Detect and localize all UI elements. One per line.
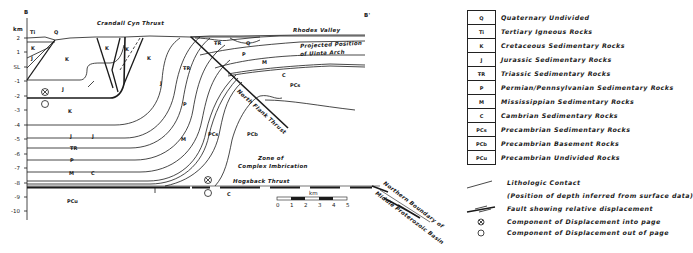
unit-c-lower: C: [91, 170, 95, 176]
legend-description: Mississippian Sedimentary Rocks: [496, 95, 675, 109]
out-of-page-symbol-left: [42, 101, 49, 108]
legend-contact-line: [467, 181, 492, 188]
legend-description: Triassic Sedimentary Rocks: [496, 67, 675, 81]
unit-j-lower: J: [70, 133, 72, 139]
legend-description: Cambrian Sedimentary Rocks: [496, 109, 675, 123]
scale-bar: [277, 197, 347, 200]
unit-k-thrust2: K: [125, 46, 129, 52]
scale-tick-1: 1: [290, 202, 294, 208]
legend-symbol: ŦR: [468, 67, 496, 81]
legend-row: PCbPrecambrian Basement Rocks: [468, 137, 675, 151]
hogsback-thrust-label: Hogsback Thrust: [233, 178, 290, 184]
unit-c-right: C: [282, 72, 286, 78]
unit-m-right: M: [262, 59, 267, 65]
legend-row: MMississippian Sedimentary Rocks: [468, 95, 675, 109]
tick-m1: -1: [15, 78, 20, 84]
out-of-page-symbol-hogsback: [205, 190, 212, 197]
legend-symbol: J: [468, 53, 496, 67]
tick-m7: -7: [15, 165, 20, 171]
tick-m8: -8: [15, 180, 20, 186]
unit-pcs-right: PCs: [290, 82, 300, 88]
scale-tick-5: 5: [346, 202, 350, 208]
legend-description: Jurassic Sedimentary Rocks: [496, 53, 675, 67]
legend-description: Precambrian Undivided Rocks: [496, 151, 675, 165]
basal-thrust: [27, 37, 125, 98]
legend-row: PPermian/Pennsylvanian Sedimentary Rocks: [468, 81, 675, 95]
crandall-thrust-label: Crandall Cyn Thrust: [97, 20, 164, 26]
legend-into-page-text: Component of Displacement into page: [507, 218, 661, 225]
unit-c-hogsback: C: [227, 191, 231, 197]
legend-row: QQuaternary Undivided: [468, 11, 675, 25]
legend-description: Precambrian Sedimentary Rocks: [496, 123, 675, 137]
legend-symbol: C: [468, 109, 496, 123]
unit-tr-lower: ŦR: [70, 145, 77, 151]
unit-p-lower: P: [70, 157, 74, 163]
unit-k-thrust: K: [105, 45, 109, 51]
legend-fault-text: Fault showing relative displacement: [507, 205, 653, 212]
unit-k-upper: K: [65, 56, 69, 62]
legend-symbol: PCu: [468, 151, 496, 165]
unit-j-limb: J: [160, 80, 162, 86]
scale-tick-3: 3: [318, 202, 322, 208]
scale-unit: km: [309, 190, 318, 196]
scale-tick-0: 0: [276, 202, 280, 208]
tick-m9: -9: [15, 194, 20, 200]
section-end-label: B': [364, 12, 370, 18]
legend-into-page-icon: [478, 219, 484, 225]
rhodes-valley-label: Rhodes Valley: [293, 27, 340, 33]
tick-m3: -3: [15, 107, 20, 113]
legend-out-of-page-text: Component of Displacement out of page: [507, 229, 669, 236]
unit-pcb: PCb: [247, 131, 258, 137]
legend-symbol: PCs: [468, 123, 496, 137]
unit-pcs-core: PCs: [208, 131, 218, 137]
legend-row: KCretaceous Sedimentary Rocks: [468, 39, 675, 53]
tick-m5: -5: [15, 136, 20, 142]
unit-j-wedge: J: [31, 55, 33, 61]
legend-row: JJurassic Sedimentary Rocks: [468, 53, 675, 67]
legend-contact-text: Lithologic Contact: [507, 179, 581, 186]
depth-axis-ticks: [24, 38, 27, 211]
unit-tr-right: ŦR: [214, 40, 221, 46]
tick-m4: -4: [15, 122, 20, 128]
legend-description: Cretaceous Sedimentary Rocks: [496, 39, 675, 53]
tick-m6: -6: [15, 151, 20, 157]
depth-tick-labels: 2 1 SL -1 -2 -3 -4 -5 -6 -7 -8 -9 -10: [0, 0, 20, 253]
legend-description: Quaternary Undivided: [496, 11, 675, 25]
legend-symbol: Q: [468, 11, 496, 25]
unit-pcu: PCu: [67, 198, 78, 204]
unit-p-limb: P: [183, 101, 187, 107]
unit-m-limb: M: [181, 136, 186, 142]
legend-description: Permian/Pennsylvanian Sedimentary Rocks: [496, 81, 675, 95]
legend-symbol: M: [468, 95, 496, 109]
legend-symbol: Ti: [468, 25, 496, 39]
legend: QQuaternary Undivided TiTertiary Igneous…: [467, 10, 675, 165]
tick-sl: SL: [13, 64, 20, 70]
unit-k-lower: K: [68, 108, 72, 114]
unit-j-lower2: J: [92, 133, 94, 139]
legend-row: CCambrian Sedimentary Rocks: [468, 109, 675, 123]
unit-p-right: P: [242, 51, 246, 57]
legend-description: Precambrian Basement Rocks: [496, 137, 675, 151]
north-flank-thrust: [191, 37, 288, 128]
scale-tick-4: 4: [332, 202, 336, 208]
tick-1: 1: [17, 49, 21, 55]
legend-symbol: PCb: [468, 137, 496, 151]
scale-tick-2: 2: [304, 202, 308, 208]
legend-contact-note-text: (Position of depth inferred from surface…: [507, 192, 693, 199]
unit-ti: Ti: [30, 29, 35, 35]
legend-row: ŦRTriassic Sedimentary Rocks: [468, 67, 675, 81]
tick-2: 2: [17, 35, 21, 41]
unit-k-right: K: [147, 55, 151, 61]
unit-m-lower: M: [69, 170, 74, 176]
legend-symbol: K: [468, 39, 496, 53]
legend-row: PCsPrecambrian Sedimentary Rocks: [468, 123, 675, 137]
unit-j-upper: J: [62, 86, 64, 92]
legend-fault-symbol: [467, 206, 495, 212]
unit-q-left: Q: [54, 29, 58, 35]
unit-k-wedge: K: [31, 45, 35, 51]
legend-row: PCuPrecambrian Undivided Rocks: [468, 151, 675, 165]
tick-m10: -10: [11, 208, 20, 214]
unit-tr-limb: ŦR: [183, 65, 190, 71]
unit-q-rhodes: Q: [246, 40, 250, 46]
legend-row: TiTertiary Igneous Rocks: [468, 25, 675, 39]
